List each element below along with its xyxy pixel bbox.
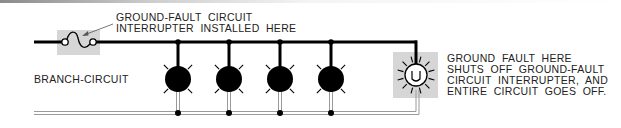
fault-callout-label: GROUND FAULT HERESHUTS OFF GROUND-FAULTC… <box>447 53 608 97</box>
lamp-ray <box>164 65 168 69</box>
lamp-bulb-icon <box>216 66 242 92</box>
lamp-ray <box>290 89 294 93</box>
lamp-ray <box>188 89 192 93</box>
lamp-2 <box>215 39 243 116</box>
lamp-ray <box>164 89 168 93</box>
branch-circuit-label: BRANCH-CIRCUIT <box>34 74 129 85</box>
lamp-ray <box>188 65 192 69</box>
lamp-ray <box>317 65 321 69</box>
lamp-ray <box>266 89 270 93</box>
lamp-ray <box>239 89 243 93</box>
lamp-ray <box>215 65 219 69</box>
lamp-ray <box>317 89 321 93</box>
neutral-junction-dot <box>226 110 232 116</box>
lamp-bulb-icon <box>165 66 191 92</box>
lamp-1 <box>164 39 192 116</box>
neutral-junction-dot <box>277 110 283 116</box>
lamp-ray <box>341 89 345 93</box>
lamp-4 <box>317 39 345 116</box>
neutral-wire <box>34 90 419 115</box>
neutral-junction-dot <box>328 110 334 116</box>
gfci-callout-label: GROUND-FAULT CIRCUITINTERRUPTER INSTALLE… <box>116 12 296 34</box>
gfci-label-line-2: INTERRUPTER INSTALLED HERE <box>116 23 296 34</box>
lamp-3 <box>266 39 294 116</box>
neutral-junction-dot <box>175 110 181 116</box>
lamp-bulb-icon <box>318 66 344 92</box>
lamp-ray <box>239 65 243 69</box>
lamp-bulb-icon <box>267 66 293 92</box>
lamp-ray <box>215 89 219 93</box>
lamp-ray <box>290 65 294 69</box>
fault-label-line-4: ENTIRE CIRCUIT GOES OFF. <box>447 86 608 97</box>
lamp-ray <box>341 65 345 69</box>
lamp-ray <box>266 65 270 69</box>
